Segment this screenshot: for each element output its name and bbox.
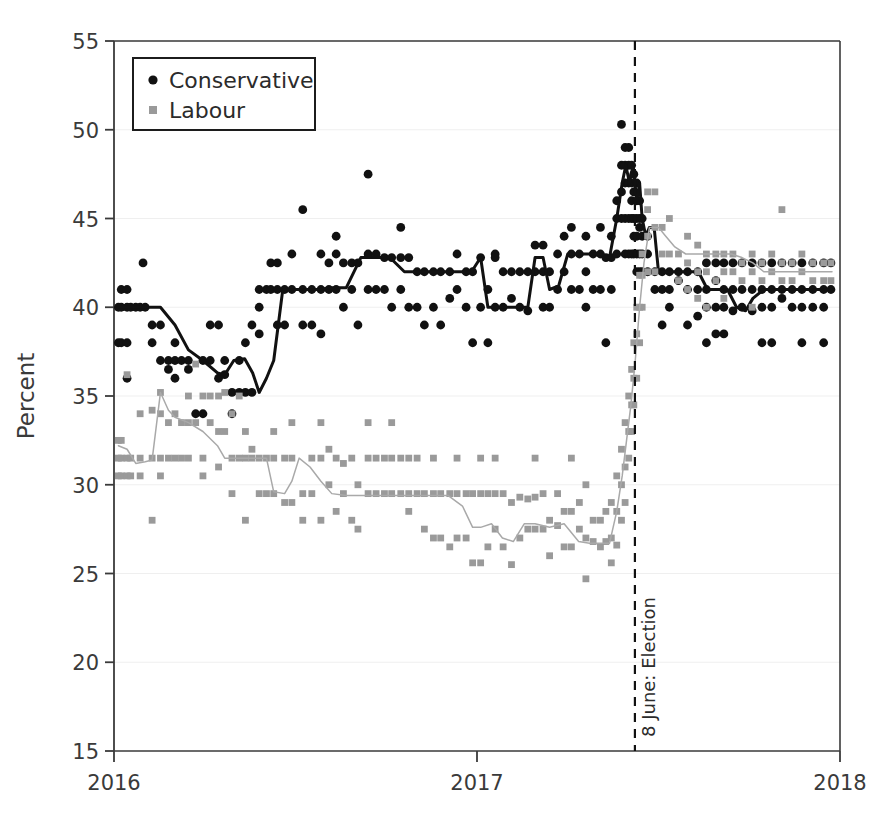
data-point — [779, 206, 786, 213]
data-point — [532, 494, 539, 501]
data-point — [767, 303, 776, 312]
data-point — [590, 517, 597, 524]
legend: ConservativeLabour — [133, 58, 315, 130]
y-axis-title: Percent — [13, 353, 39, 440]
data-point — [596, 285, 605, 294]
data-point — [767, 338, 776, 347]
data-point — [149, 517, 156, 524]
data-point — [618, 517, 625, 524]
data-point — [684, 259, 691, 266]
data-point — [156, 356, 165, 365]
data-point — [214, 321, 223, 330]
data-point — [561, 543, 568, 550]
data-point — [492, 455, 499, 462]
data-point — [299, 490, 306, 497]
data-point — [507, 267, 516, 276]
data-point — [263, 490, 270, 497]
data-point — [499, 267, 508, 276]
data-point — [720, 295, 727, 302]
data-point — [242, 517, 249, 524]
data-point — [365, 419, 372, 426]
data-point — [644, 206, 651, 213]
data-point — [768, 251, 775, 258]
data-point — [396, 223, 405, 232]
data-point — [711, 303, 720, 312]
data-point — [404, 303, 413, 312]
data-point — [200, 393, 207, 400]
data-point — [436, 321, 445, 330]
data-point — [500, 543, 507, 550]
data-point — [719, 329, 728, 338]
data-point — [229, 410, 236, 417]
data-point — [127, 472, 134, 479]
data-point — [364, 170, 373, 179]
data-point — [767, 258, 776, 267]
data-point — [148, 338, 157, 347]
data-point — [693, 312, 702, 321]
data-point — [446, 543, 453, 550]
data-point — [798, 251, 805, 258]
y-axis: 152025303540455055 — [72, 30, 114, 764]
data-point — [597, 517, 604, 524]
data-point — [270, 455, 277, 462]
data-point — [666, 251, 673, 258]
data-point — [666, 215, 673, 222]
data-point — [308, 490, 315, 497]
data-point — [236, 393, 243, 400]
data-point — [298, 205, 307, 214]
data-point — [658, 321, 667, 330]
data-point — [819, 303, 828, 312]
data-point — [372, 285, 381, 294]
data-point — [348, 455, 355, 462]
data-point — [462, 303, 471, 312]
data-point — [381, 455, 388, 462]
data-point — [554, 490, 561, 497]
data-point — [281, 499, 288, 506]
data-point — [576, 499, 583, 506]
data-point — [324, 258, 333, 267]
data-point — [484, 543, 491, 550]
data-point — [730, 268, 737, 275]
data-point — [339, 303, 348, 312]
data-point — [693, 285, 702, 294]
data-point — [347, 285, 356, 294]
data-point — [397, 455, 404, 462]
data-point — [388, 455, 395, 462]
data-point — [561, 508, 568, 515]
data-point — [355, 526, 362, 533]
data-point — [139, 258, 148, 267]
data-point — [364, 285, 373, 294]
data-point — [396, 285, 405, 294]
data-point — [348, 517, 355, 524]
data-point — [164, 365, 173, 374]
data-point — [333, 455, 340, 462]
data-point — [221, 428, 228, 435]
data-point — [318, 419, 325, 426]
data-point — [421, 526, 428, 533]
data-point — [624, 143, 633, 152]
data-point — [749, 304, 756, 311]
data-point — [299, 517, 306, 524]
data-point — [171, 374, 180, 383]
data-point — [788, 303, 797, 312]
data-point — [607, 285, 616, 294]
data-point — [118, 437, 125, 444]
data-point — [601, 338, 610, 347]
data-point — [200, 455, 207, 462]
data-point — [355, 481, 362, 488]
data-point — [215, 428, 222, 435]
data-point — [388, 419, 395, 426]
data-point — [215, 393, 222, 400]
data-point — [567, 223, 576, 232]
data-point — [184, 365, 193, 374]
data-point — [137, 472, 144, 479]
data-point — [684, 286, 691, 293]
data-point — [405, 455, 412, 462]
data-point — [524, 496, 531, 503]
data-point — [185, 393, 192, 400]
legend-label-conservative: Conservative — [169, 68, 314, 93]
x-axis: 201620172018 — [87, 751, 866, 795]
data-point — [820, 277, 827, 284]
data-point — [694, 242, 701, 249]
data-point — [248, 321, 257, 330]
